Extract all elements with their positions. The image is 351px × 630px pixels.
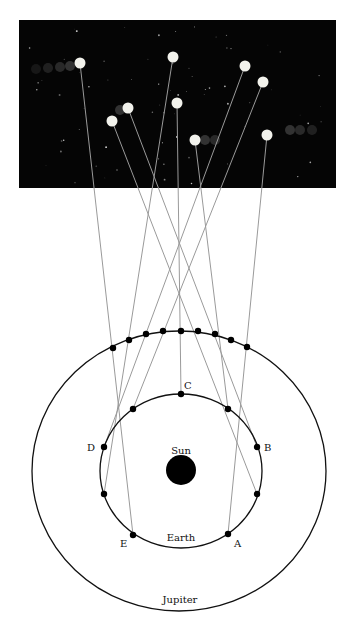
sun-label: Sun — [171, 445, 191, 456]
star-icon — [204, 94, 205, 95]
star-icon — [29, 47, 31, 49]
star-icon — [226, 47, 228, 49]
star-icon — [46, 165, 47, 166]
star-icon — [297, 176, 298, 177]
jupiter-position-dot — [143, 331, 149, 337]
star-icon — [209, 87, 211, 89]
star-icon — [174, 113, 175, 114]
star-icon — [307, 122, 309, 124]
trail-ghost-icon — [55, 62, 65, 72]
star-icon — [103, 60, 105, 62]
star-icon — [163, 164, 164, 165]
jupiter-position-dot — [110, 345, 116, 351]
earth-position-dot — [225, 406, 231, 412]
star-icon — [63, 140, 64, 141]
star-icon — [188, 157, 190, 159]
earth-position-dot — [130, 406, 136, 412]
trail-ghost-icon — [31, 64, 41, 74]
star-icon — [227, 103, 229, 105]
star-icon — [158, 158, 159, 159]
sun-icon — [166, 455, 196, 485]
star-icon — [147, 59, 148, 60]
retrograde-diagram: Sun Earth Jupiter A B C D E — [0, 0, 351, 630]
star-icon — [105, 146, 107, 148]
jupiter-position-dot — [178, 328, 184, 334]
star-icon — [164, 179, 166, 181]
jupiter-position-dot — [195, 328, 201, 334]
earth-position-dot — [130, 532, 136, 538]
jupiter-position-dot — [126, 337, 132, 343]
star-icon — [280, 51, 281, 52]
star-icon — [74, 29, 75, 30]
star-icon — [96, 166, 97, 167]
trail-ghost-icon — [285, 125, 295, 135]
earth-label: Earth — [167, 532, 196, 543]
star-icon — [37, 82, 38, 83]
earth-position-dot — [254, 444, 260, 450]
star-icon — [41, 80, 42, 81]
star-icon — [76, 30, 78, 32]
earth-position-dot — [254, 491, 260, 497]
star-icon — [64, 59, 65, 60]
position-label-e: E — [120, 538, 127, 549]
star-icon — [188, 68, 189, 69]
star-icon — [249, 102, 250, 103]
star-icon — [124, 27, 125, 28]
star-icon — [162, 142, 163, 143]
sight-line — [228, 135, 267, 534]
star-icon — [61, 140, 63, 142]
jupiter-planet-icon — [123, 103, 134, 114]
jupiter-position-dot — [212, 331, 218, 337]
position-label-b: B — [264, 442, 271, 453]
star-icon — [226, 35, 227, 36]
position-label-d: D — [87, 442, 95, 453]
trail-ghost-icon — [43, 63, 53, 73]
jupiter-planet-icon — [172, 98, 183, 109]
trail-ghost-icon — [295, 125, 305, 135]
star-icon — [224, 86, 226, 88]
star-icon — [175, 31, 176, 32]
star-icon — [192, 76, 193, 77]
star-icon — [79, 129, 80, 130]
star-icon — [216, 36, 217, 37]
star-icon — [230, 48, 231, 49]
star-icon — [116, 169, 117, 170]
star-icon — [271, 89, 272, 90]
earth-position-dot — [101, 444, 107, 450]
position-label-c: C — [184, 380, 192, 391]
star-icon — [177, 94, 179, 96]
star-icon — [300, 115, 301, 116]
star-icon — [267, 45, 268, 46]
jupiter-planet-icon — [107, 116, 118, 127]
star-icon — [170, 90, 171, 91]
star-icon — [309, 162, 311, 164]
star-icon — [60, 151, 62, 153]
star-icon — [80, 72, 81, 73]
jupiter-planet-icon — [240, 61, 251, 72]
star-icon — [88, 86, 90, 88]
star-icon — [318, 75, 319, 76]
trail-ghost-icon — [307, 125, 317, 135]
jupiter-planet-icon — [168, 52, 179, 63]
star-icon — [74, 182, 75, 183]
star-icon — [158, 34, 160, 36]
trail-ghost-icon — [65, 61, 75, 71]
jupiter-position-dot — [244, 344, 250, 350]
star-icon — [131, 79, 132, 80]
star-icon — [107, 80, 108, 81]
trail-ghost-icon — [200, 135, 210, 145]
earth-position-dot — [178, 391, 184, 397]
star-icon — [36, 89, 38, 91]
earth-position-dot — [225, 531, 231, 537]
jupiter-position-dot — [228, 337, 234, 343]
jupiter-position-dot — [160, 328, 166, 334]
jupiter-label: Jupiter — [162, 594, 198, 605]
star-icon — [205, 89, 206, 90]
star-icon — [158, 83, 159, 84]
star-icon — [321, 121, 322, 122]
star-icon — [159, 105, 160, 106]
jupiter-planet-icon — [258, 77, 269, 88]
earth-position-dot — [101, 491, 107, 497]
star-icon — [105, 178, 106, 179]
jupiter-planet-icon — [262, 130, 273, 141]
